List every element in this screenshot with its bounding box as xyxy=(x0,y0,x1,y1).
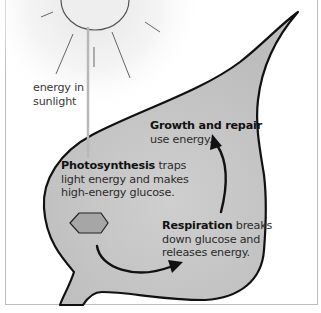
respiration-label-line3: releases energy. xyxy=(162,246,272,260)
sun-label-line2: sunlight xyxy=(33,95,84,109)
growth-label-line2: use energy. xyxy=(150,133,262,147)
photosynthesis-label-line2: light energy and makes xyxy=(61,173,189,187)
leaf-diagram xyxy=(0,0,321,313)
sun-label: energy in sunlight xyxy=(33,81,84,108)
respiration-label-line2: down glucose and xyxy=(162,233,272,247)
photosynthesis-label: Photosynthesis traps light energy and ma… xyxy=(61,159,189,200)
photosynthesis-label-line3: high-energy glucose. xyxy=(61,186,189,200)
respiration-label-rest: breaks xyxy=(232,219,272,232)
hexagon-glucose-icon xyxy=(70,213,108,233)
sun-label-line1: energy in xyxy=(33,81,84,95)
respiration-label-bold: Respiration xyxy=(162,219,232,232)
photosynthesis-label-rest: traps xyxy=(155,159,186,172)
growth-label: Growth and repair use energy. xyxy=(150,119,262,146)
photosynthesis-label-bold: Photosynthesis xyxy=(61,159,155,172)
growth-label-bold: Growth and repair xyxy=(150,119,262,132)
respiration-label: Respiration breaks down glucose and rele… xyxy=(162,219,272,260)
